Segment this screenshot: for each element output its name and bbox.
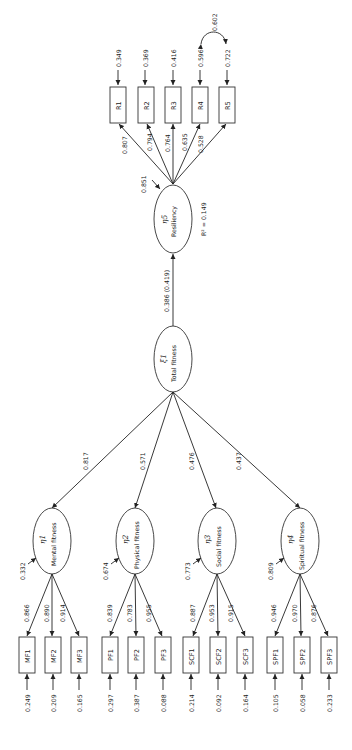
loading-R2: 0.794	[146, 133, 153, 151]
symbol-eta5: η5	[160, 215, 169, 224]
covariance-R4-R5: 0.602	[211, 13, 218, 31]
symbol-eta4: η4	[286, 535, 295, 544]
loading-SPF1: 0.946	[270, 604, 277, 622]
error-SPF1: 0.105	[272, 694, 279, 712]
loading-PF3: 0.955	[145, 604, 152, 622]
factor-mental-fitness: η1 Mental fitness 0.332 0.866 0.890 0.91…	[19, 508, 87, 712]
indicator-SCF2: SCF2	[215, 648, 223, 665]
disturbance-social: 0.773	[184, 562, 191, 580]
disturbance-physical: 0.674	[102, 562, 109, 580]
error-PF1: 0.297	[107, 694, 114, 712]
loading-MF1: 0.866	[23, 604, 30, 622]
indicator-SCF1: SCF1	[188, 648, 196, 665]
indicator-PF2: PF2	[133, 649, 141, 661]
label-resiliency: Resiliency	[170, 206, 178, 237]
path-physical: 0.571	[139, 452, 146, 470]
loading-SPF3: 0.876	[310, 604, 317, 622]
loading-SPF2: 0.970	[291, 604, 298, 622]
error-R4: 0.596	[197, 49, 204, 67]
loading-PF1: 0.839	[106, 604, 113, 622]
factor-physical-fitness: η2 Physical fitness 0.674 0.839 0.783 0.…	[102, 508, 171, 712]
r-squared: R² = 0.149	[200, 202, 207, 236]
loading-SCF2: 0.953	[208, 604, 215, 622]
second-order-paths: 0.817 0.571 0.476 0.437	[52, 392, 300, 508]
structural-path-label: 0.386 (0.419)	[163, 270, 170, 312]
error-PF2: 0.387	[133, 694, 140, 712]
loading-R3: 0.764	[164, 134, 171, 152]
loading-R5: 0.528	[197, 135, 204, 153]
error-MF1: 0.249	[24, 694, 31, 712]
error-R1: 0.349	[115, 49, 122, 67]
path-spiritual: 0.437	[235, 452, 242, 470]
error-SPF3: 0.233	[326, 694, 333, 712]
loading-R1: 0.807	[121, 136, 128, 154]
resiliency-indicators: 0.349 0.369 0.416 0.596 0.722 0.602 R1 R…	[110, 13, 235, 184]
indicator-MF1: MF1	[24, 649, 32, 663]
path-mental: 0.817	[82, 452, 89, 470]
indicator-SPF3: SPF3	[326, 649, 334, 665]
path-diagram: 0.349 0.369 0.416 0.596 0.722 0.602 R1 R…	[0, 0, 352, 750]
label-mental-fitness: Mental fitness	[50, 523, 57, 566]
loading-MF2: 0.890	[43, 604, 50, 622]
disturbance-resiliency: 0.851	[140, 175, 147, 193]
label-physical-fitness: Physical fitness	[133, 521, 141, 569]
label-total-fitness: Total fitness	[170, 345, 177, 383]
loading-R4: 0.635	[181, 133, 188, 151]
error-MF2: 0.209	[50, 694, 57, 712]
indicator-MF3: MF3	[76, 649, 84, 663]
indicator-PF3: PF3	[160, 649, 168, 661]
error-SCF3: 0.164	[242, 694, 249, 712]
symbol-eta2: η2	[121, 535, 130, 544]
indicator-SPF2: SPF2	[299, 649, 307, 665]
symbol-eta3: η3	[203, 535, 212, 544]
error-SCF2: 0.092	[215, 694, 222, 712]
resiliency-latent: 0.851 η5 Resiliency R² = 0.149	[140, 175, 207, 253]
symbol-xi1: ξ1	[159, 354, 168, 363]
error-PF3: 0.088	[160, 694, 167, 712]
factor-spiritual-fitness: η4 Spiritual fitness 0.809 0.946 0.970 0…	[267, 508, 337, 712]
indicator-R4: R4	[197, 101, 205, 110]
factor-social-fitness: η3 Social fitness 0.773 0.887 0.953 0.91…	[183, 508, 253, 712]
error-SCF1: 0.214	[188, 694, 195, 712]
indicator-SPF1: SPF1	[272, 649, 280, 665]
indicator-PF1: PF1	[107, 649, 115, 661]
loading-MF3: 0.914	[59, 604, 66, 622]
indicator-R1: R1	[115, 101, 123, 110]
indicator-SCF3: SCF3	[242, 648, 250, 665]
loading-PF2: 0.783	[126, 604, 133, 622]
indicator-R5: R5	[224, 101, 232, 110]
label-social-fitness: Social fitness	[215, 526, 222, 567]
error-SPF2: 0.058	[299, 694, 306, 712]
loading-SCF3: 0.915	[227, 604, 234, 622]
indicator-R2: R2	[143, 101, 151, 110]
symbol-eta1: η1	[38, 535, 47, 544]
path-social: 0.476	[188, 452, 195, 470]
total-fitness-latent: ξ1 Total fitness	[154, 326, 192, 392]
error-R3: 0.416	[170, 49, 177, 67]
indicator-R3: R3	[170, 101, 178, 110]
loading-SCF1: 0.887	[189, 604, 196, 622]
error-R5: 0.722	[224, 49, 231, 67]
error-MF3: 0.165	[76, 694, 83, 712]
indicator-MF2: MF2	[50, 649, 58, 663]
disturbance-mental: 0.332	[19, 562, 26, 580]
disturbance-spiritual: 0.809	[267, 562, 274, 580]
error-R2: 0.369	[142, 49, 149, 67]
label-spiritual-fitness: Spiritual fitness	[298, 522, 306, 570]
